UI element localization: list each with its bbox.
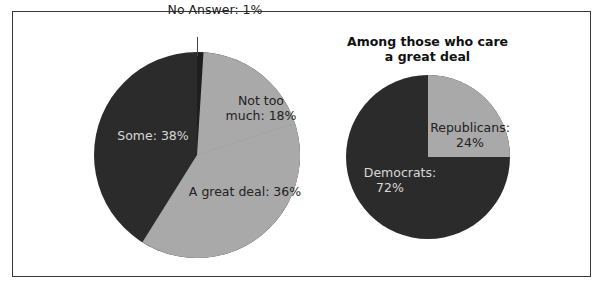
label-no-answer: No Answer: 1% <box>160 2 270 17</box>
label-democrats-line2: 72% <box>360 180 420 195</box>
label-not-too-much-line1: Not too <box>216 93 306 108</box>
right-pie-title-line1: Among those who care <box>340 34 515 49</box>
right-pie <box>346 75 510 239</box>
label-some: Some: 38% <box>108 128 198 143</box>
label-great-deal: A great deal: 36% <box>180 184 310 199</box>
label-democrats-line1: Democrats: <box>360 165 440 180</box>
label-republicans-line2: 24% <box>430 135 510 150</box>
left-pie <box>94 37 300 258</box>
label-not-too-much-line2: much: 18% <box>216 108 306 123</box>
right-pie-title-line2: a great deal <box>340 49 515 64</box>
label-republicans-line1: Republicans: <box>430 120 510 135</box>
